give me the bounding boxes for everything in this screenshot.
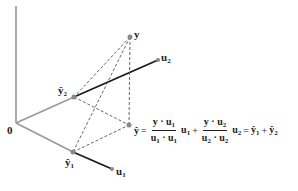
formula-u2: u2 — [232, 124, 241, 137]
formula-lhs: ŷ — [134, 125, 139, 136]
label-u1: u1 — [116, 166, 126, 179]
label-yhat2: ŷ2 — [58, 85, 67, 98]
formula-equals: = — [141, 125, 147, 136]
formula-yhat1: ŷ1 — [251, 124, 260, 137]
vector-origin-to-yhat1 — [16, 123, 73, 152]
point-yhat1 — [71, 150, 76, 155]
label-yhat1: ŷ1 — [65, 157, 74, 170]
formula-plus-2: + — [261, 125, 267, 136]
label-origin: 0 — [7, 125, 13, 136]
vector-u1 — [73, 152, 112, 169]
label-u2: u2 — [161, 52, 171, 65]
point-u2 — [156, 58, 160, 62]
point-yhat — [127, 123, 132, 128]
formula-yhat2: ŷ2 — [269, 124, 278, 137]
point-y — [128, 35, 133, 40]
formula-plus: + — [192, 125, 198, 136]
formula-fraction-2: y · u2 u2 · u2 — [201, 116, 229, 145]
vector-origin-to-yhat2 — [16, 97, 74, 123]
projection-formula: ŷ = y · u1 u1 · u1 u1 + y · u2 u2 · u2 u… — [134, 116, 278, 145]
formula-u1: u1 — [181, 124, 190, 137]
formula-fraction-1: y · u1 u1 · u1 — [150, 116, 178, 145]
point-yhat2 — [72, 95, 77, 100]
point-u1 — [110, 167, 114, 171]
projection-diagram — [0, 0, 298, 191]
formula-equals-2: = — [243, 125, 249, 136]
label-y: y — [134, 29, 140, 40]
